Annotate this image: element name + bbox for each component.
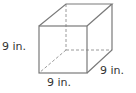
hidden-edge-diagonal <box>39 50 66 73</box>
top-face <box>39 4 112 26</box>
visible-edges <box>39 4 112 73</box>
height-label: 9 in. <box>2 41 26 53</box>
cube-diagram: 9 in. 9 in. 9 in. <box>0 0 136 93</box>
depth-label: 9 in. <box>100 65 124 77</box>
width-label: 9 in. <box>47 77 71 89</box>
front-face <box>39 26 87 73</box>
